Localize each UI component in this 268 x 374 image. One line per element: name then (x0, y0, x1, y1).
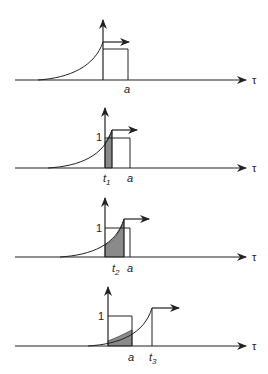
pulse-end-label: a (127, 172, 133, 184)
kernel-curve (48, 130, 112, 168)
tau-axis-label: τ (252, 340, 257, 352)
kernel-curve (38, 42, 103, 80)
tau-axis-label: τ (252, 251, 257, 263)
pulse-end-label: a (128, 351, 134, 363)
tau-axis-label: τ (252, 74, 257, 86)
panel-1: τ a (15, 20, 257, 95)
overlap-area (105, 219, 124, 257)
time-label: t2 (112, 262, 120, 277)
panel-4: τ 1 a t3 (15, 287, 257, 366)
time-label: t3 (149, 351, 157, 366)
panel-2: τ 1 t1 a (15, 108, 257, 187)
pulse-end-label: a (127, 262, 133, 274)
unit-pulse (103, 49, 128, 80)
pulse-end-label: a (124, 83, 130, 95)
overlap-area (105, 130, 112, 168)
overlap-area (108, 330, 132, 346)
time-label-sub: 3 (152, 357, 157, 366)
tau-axis-label: τ (252, 162, 257, 174)
height-label: 1 (96, 222, 102, 234)
time-label-sub: 1 (106, 178, 110, 187)
height-label: 1 (96, 131, 102, 143)
panel-3: τ 1 t2 a (15, 198, 257, 277)
time-label-sub: 2 (114, 268, 120, 277)
time-label: t1 (103, 172, 111, 187)
height-label: 1 (98, 310, 104, 322)
convolution-diagram: τ a τ 1 t1 a τ 1 t2 a τ (0, 0, 268, 374)
